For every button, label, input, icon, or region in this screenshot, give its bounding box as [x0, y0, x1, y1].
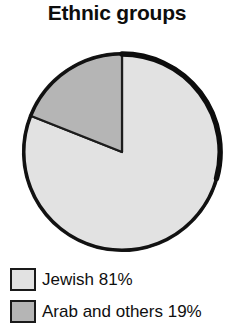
pie-chart-figure: Ethnic groups Jewish 81% Arab and others… [0, 0, 234, 328]
pie-svg [20, 48, 224, 256]
legend-label-arab-and-others: Arab and others 19% [42, 303, 202, 320]
chart-legend: Jewish 81% Arab and others 19% [10, 263, 234, 327]
legend-swatch-jewish [10, 268, 36, 291]
legend-swatch-arab-and-others [10, 300, 36, 323]
pie-chart-graphic [20, 48, 224, 256]
legend-item-arab-and-others: Arab and others 19% [10, 295, 234, 327]
legend-item-jewish: Jewish 81% [10, 263, 234, 295]
page-title: Ethnic groups [0, 1, 234, 25]
legend-label-jewish: Jewish 81% [42, 271, 133, 288]
